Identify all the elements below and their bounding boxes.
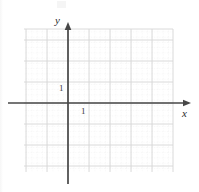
minor-gridlines bbox=[24, 29, 173, 172]
coordinate-plane-figure: y x 1 1 bbox=[0, 0, 199, 192]
y-axis-tick-label-one: 1 bbox=[59, 84, 64, 93]
plot-canvas bbox=[0, 0, 199, 192]
x-axis-tick-label-one: 1 bbox=[81, 107, 86, 116]
x-axis-label: x bbox=[182, 108, 187, 119]
x-axis-arrowhead bbox=[183, 100, 191, 107]
y-axis-label: y bbox=[55, 15, 60, 26]
y-axis-arrowhead bbox=[65, 22, 72, 30]
